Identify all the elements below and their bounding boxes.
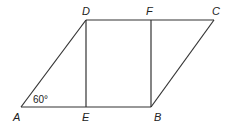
- point-label-a: A: [12, 111, 20, 123]
- segment-ad: [21, 20, 86, 107]
- point-label-b: B: [154, 111, 161, 123]
- point-label-f: F: [146, 5, 154, 17]
- figure-svg: 60° D F C A E B: [0, 0, 229, 130]
- geometry-figure: 60° D F C A E B: [0, 0, 229, 130]
- angle-label-a: 60°: [33, 94, 48, 105]
- point-label-d: D: [82, 5, 90, 17]
- point-label-e: E: [82, 111, 90, 123]
- segment-bc: [151, 20, 214, 107]
- point-label-c: C: [212, 5, 220, 17]
